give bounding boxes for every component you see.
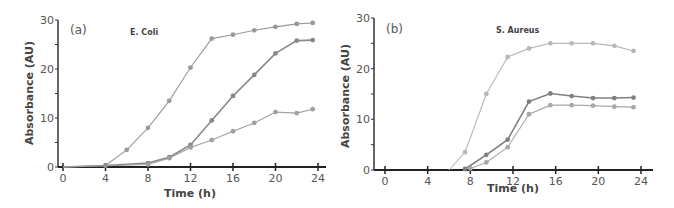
data-point <box>631 49 636 54</box>
data-point <box>612 43 617 48</box>
data-point <box>310 107 315 112</box>
x-axis-title: Time (h) <box>164 187 216 200</box>
data-point <box>569 94 574 99</box>
data-point <box>569 103 574 108</box>
data-point <box>527 46 532 51</box>
data-point <box>209 118 214 123</box>
data-point <box>463 150 468 155</box>
x-tick-label: 24 <box>634 175 648 188</box>
y-tick-label: 0 <box>363 164 370 177</box>
chart-title: E. Coli <box>130 28 158 37</box>
data-point <box>294 22 299 27</box>
panel-label: (a) <box>70 23 87 37</box>
data-point <box>569 41 574 46</box>
x-tick-label: 8 <box>145 172 152 185</box>
data-point <box>631 105 636 110</box>
y-tick-label: 30 <box>40 14 54 27</box>
data-point <box>167 98 172 103</box>
data-point <box>273 51 278 56</box>
data-point <box>146 125 151 130</box>
data-point <box>548 103 553 108</box>
data-point <box>273 24 278 29</box>
series-line-series-3 <box>470 105 633 168</box>
data-point <box>310 38 315 43</box>
data-point <box>591 103 596 108</box>
x-tick-label: 4 <box>102 172 109 185</box>
data-point <box>527 112 532 117</box>
data-point <box>124 147 129 152</box>
x-tick-label: 12 <box>184 172 198 185</box>
data-point <box>188 145 193 150</box>
data-point <box>273 110 278 115</box>
data-point <box>484 152 489 157</box>
x-tick-label: 4 <box>424 175 431 188</box>
x-tick-label: 16 <box>549 175 563 188</box>
y-tick-label: 0 <box>47 161 54 174</box>
data-point <box>252 121 257 126</box>
chart-s-aureus: (b) S. Aureus Time (h) Absorbance (AU) 0… <box>339 12 653 195</box>
series-line-series-1 <box>63 23 313 167</box>
y-axis-title: Absorbance (AU) <box>23 41 36 145</box>
chart-e-coli: (a) E. Coli Time (h) Absorbance (AU) 010… <box>23 14 326 200</box>
data-point <box>209 138 214 143</box>
data-point <box>188 65 193 70</box>
series-line-series-2 <box>63 40 313 167</box>
y-tick-label: 20 <box>40 63 54 76</box>
data-point <box>548 91 553 96</box>
data-point <box>505 137 510 142</box>
data-point <box>505 145 510 150</box>
data-point <box>484 92 489 97</box>
y-tick-label: 10 <box>356 113 370 126</box>
data-point <box>294 111 299 116</box>
x-tick-label: 16 <box>226 172 240 185</box>
x-tick-label: 12 <box>506 175 520 188</box>
data-point <box>146 162 151 167</box>
panel-label: (b) <box>386 22 403 36</box>
y-tick-label: 30 <box>356 12 370 25</box>
figure: (a) E. Coli Time (h) Absorbance (AU) 010… <box>0 0 674 208</box>
x-tick-label: 8 <box>467 175 474 188</box>
data-point <box>612 96 617 101</box>
data-point <box>231 94 236 99</box>
y-tick-label: 20 <box>356 63 370 76</box>
data-point <box>231 32 236 37</box>
data-point <box>505 55 510 60</box>
y-axis-title: Absorbance (AU) <box>339 44 352 148</box>
series-line-series-3 <box>63 109 313 167</box>
x-tick-label: 20 <box>269 172 283 185</box>
data-point <box>463 167 468 172</box>
x-tick-label: 0 <box>60 172 67 185</box>
data-point <box>252 72 257 77</box>
data-point <box>612 104 617 109</box>
y-tick-label: 10 <box>40 112 54 125</box>
data-point <box>468 166 473 171</box>
x-tick-label: 24 <box>311 172 325 185</box>
data-point <box>209 36 214 41</box>
data-point <box>484 160 489 165</box>
x-tick-label: 0 <box>382 175 389 188</box>
data-point <box>527 99 532 104</box>
data-point <box>231 129 236 134</box>
x-tick-label: 20 <box>591 175 605 188</box>
data-point <box>591 96 596 101</box>
data-point <box>294 38 299 43</box>
data-point <box>548 41 553 46</box>
data-point <box>167 156 172 161</box>
data-point <box>310 21 315 26</box>
chart-title: S. Aureus <box>496 26 540 35</box>
data-point <box>252 28 257 33</box>
data-point <box>591 41 596 46</box>
data-point <box>631 95 636 100</box>
